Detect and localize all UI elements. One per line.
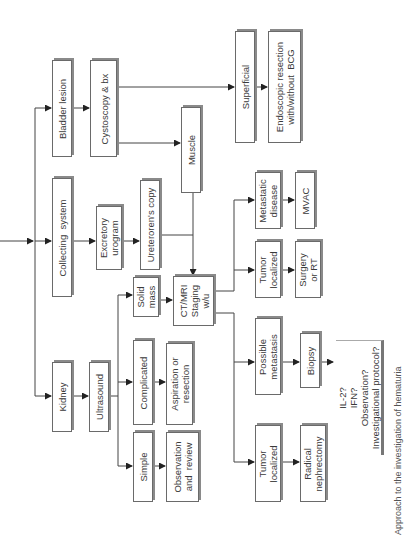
node-label: CT/MRI Staging w/u [177,285,210,318]
node-label: Cystoscopy & bx [98,73,109,144]
node-metastatic-disease: Metastatic disease [255,172,281,229]
node-mvac: MVAC [295,172,315,229]
node-label: Tumor localized [257,251,279,288]
node-ureterorenoscopy: Ureteroren's copy [140,180,160,270]
node-observation-review: Observation and review [166,432,199,502]
node-bladder-lesion: Bladder lesion [52,60,72,157]
node-tumor-localized-1: Tumor localized [255,241,281,298]
node-ct-mri-staging: CT/MRI Staging w/u [173,276,214,326]
node-label: Biopsy [305,346,316,375]
node-possible-metastasis: Possible metastasis [255,318,281,395]
node-label: Excretory urogram [98,218,120,258]
node-superficial: Superficial [235,31,255,143]
node-label: Collecting system [57,199,68,276]
node-label: Radical nephrectomy [302,436,324,491]
node-kidney: Kidney [52,362,72,432]
node-ultrasound: Ultrasound [89,362,109,432]
node-label: Kidney [57,382,68,411]
node-aspiration-resection: Aspiration or resection [166,343,193,425]
node-label: Metastatic disease [257,179,279,222]
node-label: MVAC [300,187,311,214]
node-label: Complicated [138,356,149,409]
node-label: Bladder lesion [57,78,68,138]
node-surgery-rt: Surgery or RT [295,241,321,298]
node-tumor-localized-2: Tumor localized [255,425,281,502]
node-cystoscopy-bx: Cystoscopy & bx [90,60,117,157]
node-label: Muscle [186,135,197,165]
node-label: Solid mass [135,286,157,309]
node-label: IL-2? IFN? Observation? Investigational … [337,347,381,449]
node-label: Aspiration or resection [169,357,191,410]
node-biopsy: Biopsy [300,333,320,388]
node-radical-nephrectomy: Radical nephrectomy [300,425,326,502]
node-label: Surgery or RT [297,253,319,286]
node-label: Ultrasound [94,374,105,420]
node-label: Simple [138,452,149,481]
node-muscle: Muscle [181,107,201,193]
node-label: Possible metastasis [257,334,279,379]
node-collecting-system: Collecting system [52,178,72,297]
node-label: Ureteroren's copy [145,188,156,263]
node-label: Tumor localized [257,445,279,482]
node-label: Endoscopic resection with/without BCG [274,42,296,132]
figure-caption: Approach to the investigation of hematur… [393,366,403,535]
node-simple: Simple [133,432,153,502]
hematuria-flowchart: Bladder lesion Cystoscopy & bx Superfici… [0,0,404,535]
node-label: Observation and review [172,441,194,492]
node-endoscopic-resection: Endoscopic resection with/without BCG [268,31,301,143]
node-label: Superficial [240,65,251,109]
node-systemic-options: IL-2? IFN? Observation? Investigational … [336,340,384,455]
node-solid-mass: Solid mass [133,277,159,317]
node-excretory-urogram: Excretory urogram [96,206,122,270]
node-complicated: Complicated [133,340,153,425]
